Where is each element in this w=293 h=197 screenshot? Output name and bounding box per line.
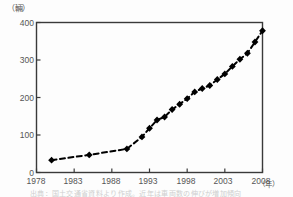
- data-point-markers: [48, 27, 266, 163]
- data-line-series: [52, 31, 263, 160]
- data-point-marker: [206, 82, 213, 89]
- data-point-marker: [48, 157, 55, 164]
- data-point-marker: [199, 85, 206, 92]
- plot-canvas: [0, 0, 293, 197]
- figure-caption: 出典：国土交通省資料より作成。近年は車両数の伸びが増加傾向: [30, 188, 293, 197]
- plot-frame: [37, 23, 263, 173]
- data-point-marker: [86, 151, 93, 158]
- chart-figure: （輛） 400 300 200 100 0 1978 1983 1988 199…: [0, 0, 293, 197]
